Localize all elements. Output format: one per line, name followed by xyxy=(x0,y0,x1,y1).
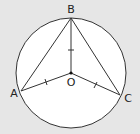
label-a: A xyxy=(10,87,18,100)
circle-triangle-diagram: B O A C xyxy=(0,0,140,134)
label-o: O xyxy=(67,76,76,89)
center-point-o xyxy=(69,71,72,74)
label-b: B xyxy=(67,3,75,16)
label-c: C xyxy=(124,92,132,105)
